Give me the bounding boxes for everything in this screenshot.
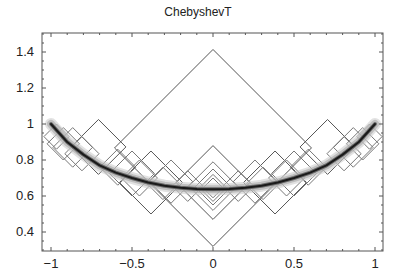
plot-area [0, 0, 396, 276]
y-tick-label: 0.4 [0, 224, 34, 239]
y-tick-label: 0.6 [0, 188, 34, 203]
x-tick-label: 1 [355, 256, 395, 271]
limit-curve-line [51, 124, 375, 189]
x-tick-label: −1 [31, 256, 71, 271]
x-tick-label: 0 [193, 256, 233, 271]
limit-curve [51, 124, 375, 189]
limit-curve-line [51, 124, 375, 189]
diamond-series [44, 49, 382, 246]
y-tick-label: 1.2 [0, 80, 34, 95]
y-tick-label: 1 [0, 116, 34, 131]
limit-curve-line [51, 124, 375, 189]
y-tick-label: 1.4 [0, 44, 34, 59]
x-tick-label: 0.5 [274, 256, 314, 271]
x-tick-label: −0.5 [112, 256, 152, 271]
limit-curve-line [51, 124, 375, 189]
diamond-shape [115, 49, 312, 246]
y-tick-label: 0.8 [0, 152, 34, 167]
